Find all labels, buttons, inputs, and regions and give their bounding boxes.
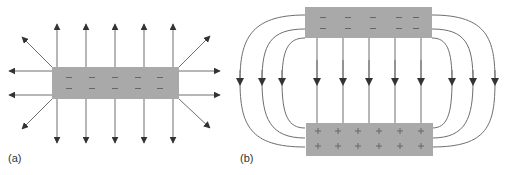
field-lines-between-plates — [317, 38, 421, 123]
negative-plate-b — [305, 7, 432, 38]
positive-plate-b — [306, 123, 433, 156]
field-lines-right — [179, 36, 220, 128]
fringe-field-lines-left — [240, 15, 305, 147]
negative-plate-a — [52, 67, 179, 99]
field-lines-left — [9, 37, 52, 129]
fringe-field-lines-right — [432, 15, 495, 147]
field-diagram — [0, 0, 509, 175]
field-lines-down — [57, 99, 173, 143]
panel-a-label: (a) — [8, 152, 21, 164]
field-lines-up — [57, 24, 173, 67]
panel-b-label: (b) — [240, 152, 253, 164]
